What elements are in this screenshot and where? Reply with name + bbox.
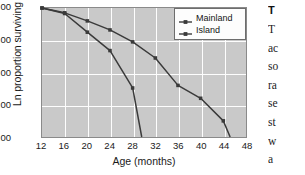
data-point-marker [176,84,180,88]
x-tick-label: 40 [190,140,212,151]
data-point-marker [131,40,135,44]
legend-label: Island [196,25,220,35]
x-tick-label: 32 [144,140,166,151]
y-tick-label: -3.00 [0,99,11,110]
data-point-marker [154,56,158,60]
side-text-line: w [268,132,305,151]
data-point-marker [86,19,90,23]
data-point-marker [108,49,112,53]
data-point-marker [131,86,135,90]
legend-item-island: Island [178,24,241,36]
x-tick-label: 44 [213,140,235,151]
data-point-marker [63,12,67,16]
y-tick-label: -2.00 [0,67,11,78]
data-point-marker [86,30,90,34]
x-tick-label: 48 [236,140,258,151]
series-line-island [42,8,142,137]
side-text-line: ac [268,39,305,58]
legend-label: Mainland [196,13,233,23]
legend-marker-icon [178,13,193,23]
side-text-column: T Tacsorasestwa [268,0,305,175]
side-text-line: a [268,150,305,169]
side-text-heading: T [268,4,275,16]
y-tick-label: -1.00 [0,34,11,45]
x-tick-label: 36 [167,140,189,151]
x-tick-label: 20 [76,140,98,151]
legend-item-mainland: Mainland [178,12,241,24]
data-point-marker [199,97,203,101]
data-point-marker [40,6,44,10]
y-axis-title: Ln proportion surviving [11,0,23,118]
side-text-line: so [268,57,305,76]
side-text-line: ra [268,76,305,95]
survivorship-chart-figure: Ln proportion surviving 0.00-1.00-2.00-3… [0,0,262,175]
side-text-line: st [268,113,305,132]
side-text-line: se [268,94,305,113]
y-tick-label: -4.00 [0,132,11,143]
x-axis-title: Age (months) [41,155,247,167]
side-text-line: T [268,20,305,39]
legend-marker-icon [178,25,193,35]
chart-legend: MainlandIsland [174,8,246,40]
y-tick-label: 0.00 [0,1,11,12]
x-tick-label: 28 [122,140,144,151]
side-text-body: Tacsorasestwa [268,20,305,169]
x-tick-label: 24 [99,140,121,151]
data-point-marker [222,119,226,123]
x-tick-label: 12 [30,140,52,151]
data-point-marker [108,28,112,32]
figure-page: Ln proportion surviving 0.00-1.00-2.00-3… [0,0,305,175]
x-tick-label: 16 [53,140,75,151]
